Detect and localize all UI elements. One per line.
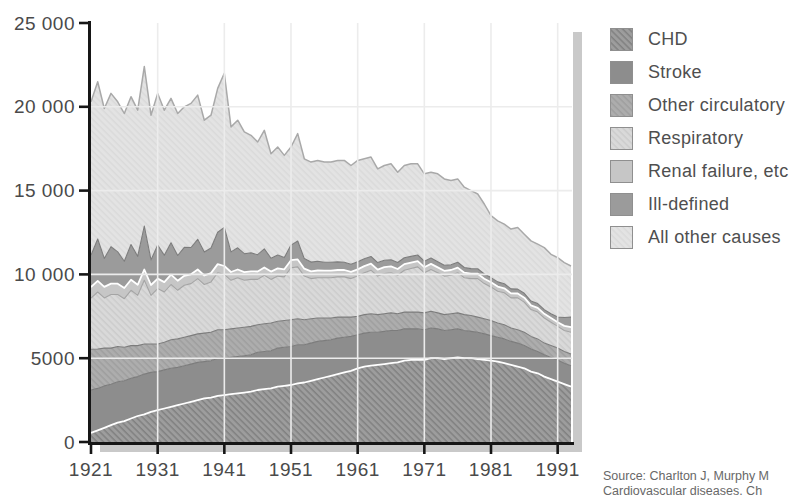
legend-item-renal-failure-etc: Renal failure, etc xyxy=(610,160,788,183)
y-tick-label: 5000 xyxy=(31,348,75,369)
legend-item-ill-defined: Ill-defined xyxy=(610,193,788,216)
legend-label: Ill-defined xyxy=(648,193,729,216)
legend-item-stroke: Stroke xyxy=(610,61,788,84)
legend-label: CHD xyxy=(648,28,688,51)
source-line-2: Cardiovascular diseases. Ch xyxy=(603,484,769,496)
legend-swatch-ill-defined xyxy=(610,193,633,216)
legend-swatch-renal-failure-etc xyxy=(610,160,633,183)
legend-item-chd: CHD xyxy=(610,28,788,51)
x-tick-label: 1921 xyxy=(69,459,113,480)
x-tick-label: 1931 xyxy=(136,459,180,480)
legend-item-respiratory: Respiratory xyxy=(610,127,788,150)
x-tick-label: 1951 xyxy=(269,459,313,480)
legend-label: All other causes xyxy=(648,226,781,249)
legend-item-all-other-causes: All other causes xyxy=(610,226,788,249)
legend-swatch-respiratory xyxy=(610,127,633,150)
x-tick-label: 1941 xyxy=(202,459,246,480)
legend-label: Stroke xyxy=(648,61,702,84)
x-tick-label: 1971 xyxy=(402,459,446,480)
chart-legend: CHDStrokeOther circulatoryRespiratoryRen… xyxy=(610,28,788,249)
x-tick-label: 1961 xyxy=(336,459,380,480)
legend-label: Other circulatory xyxy=(648,94,785,117)
y-tick-label: 0 xyxy=(64,432,75,453)
legend-label: Renal failure, etc xyxy=(648,160,788,183)
legend-swatch-all-other-causes xyxy=(610,226,633,249)
legend-swatch-chd xyxy=(610,28,633,51)
source-citation: Source: Charlton J, Murphy M Cardiovascu… xyxy=(603,469,769,496)
x-tick-label: 1981 xyxy=(469,459,513,480)
x-tick-label: 1991 xyxy=(536,459,580,480)
source-line-1: Source: Charlton J, Murphy M xyxy=(603,469,769,484)
legend-swatch-stroke xyxy=(610,61,633,84)
legend-item-other-circulatory: Other circulatory xyxy=(610,94,788,117)
y-tick-label: 25 000 xyxy=(14,13,75,34)
y-tick-label: 10 000 xyxy=(14,264,75,285)
legend-swatch-other-circulatory xyxy=(610,94,633,117)
y-tick-label: 15 000 xyxy=(14,180,75,201)
y-tick-label: 20 000 xyxy=(14,96,75,117)
legend-label: Respiratory xyxy=(648,127,743,150)
